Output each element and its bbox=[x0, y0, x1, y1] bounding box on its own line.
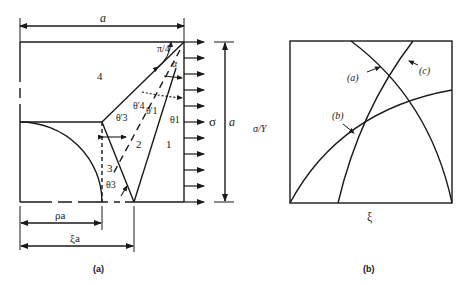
caption-a: (a) bbox=[93, 264, 104, 274]
x-axis-label: ξ bbox=[367, 210, 373, 224]
region-4-label: 4 bbox=[97, 70, 103, 82]
theta3-label: θ3 bbox=[106, 179, 116, 190]
theta3-prime-label: θ'3 bbox=[116, 112, 128, 123]
curve-c bbox=[338, 41, 413, 203]
width-label: a bbox=[100, 11, 106, 25]
height-label: a bbox=[229, 115, 235, 129]
curve-b bbox=[290, 90, 452, 203]
theta1-label: θ1 bbox=[170, 114, 180, 125]
stress-arrows bbox=[184, 42, 204, 202]
line-theta1 bbox=[134, 68, 176, 202]
region-2-label: 2 bbox=[136, 138, 142, 150]
y-axis-label: σ/Y bbox=[253, 123, 268, 134]
region-3-label: 3 bbox=[107, 162, 113, 174]
curve-c-label: (c) bbox=[419, 65, 431, 77]
diagram-canvas: a a σ π/4 α 4 1 2 3 θ'4 θ'1 θ1 θ'3 θ3 ρa… bbox=[0, 0, 472, 285]
theta4-prime-label: θ'4 bbox=[133, 100, 145, 111]
figure-a bbox=[20, 18, 234, 252]
region-1-label: 1 bbox=[166, 138, 172, 150]
stress-label: σ bbox=[209, 114, 216, 129]
curve-a-label: (a) bbox=[347, 72, 359, 84]
alpha-label: α bbox=[172, 58, 178, 69]
xi-dim-label: ξa bbox=[70, 232, 80, 245]
circular-boundary bbox=[20, 122, 102, 202]
caption-b: (b) bbox=[363, 264, 375, 274]
rho-dim-label: ρa bbox=[55, 209, 65, 221]
angle-pi4-label: π/4 bbox=[157, 43, 170, 54]
theta1-prime-label: θ'1 bbox=[146, 105, 158, 116]
curve-b-label: (b) bbox=[332, 110, 344, 122]
